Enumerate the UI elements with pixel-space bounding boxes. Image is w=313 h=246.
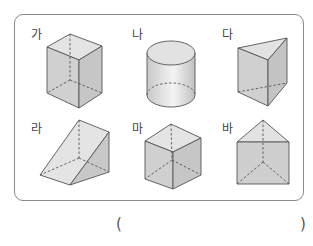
answer-open-paren: ( [116, 217, 122, 232]
answer-close-paren: ) [300, 217, 306, 232]
cube-icon [145, 124, 201, 189]
answer-blank[interactable] [128, 216, 298, 236]
triangular-prism-icon [238, 38, 287, 106]
triangular-prism-front-icon [237, 120, 289, 184]
shapes-drawing [0, 0, 313, 246]
wedge-prism-icon [40, 120, 109, 185]
rectangular-prism-icon [47, 34, 102, 108]
cylinder-icon [147, 41, 195, 107]
